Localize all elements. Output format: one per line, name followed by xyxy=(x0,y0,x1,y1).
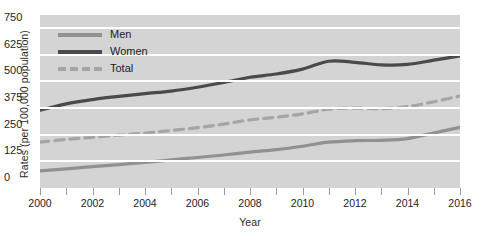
y-tick-label: 375 xyxy=(4,91,22,103)
gridline xyxy=(40,107,460,109)
y-tick-label: 0 xyxy=(4,171,10,183)
x-tick-label: 2016 xyxy=(448,197,471,209)
x-tick-mark xyxy=(171,188,172,195)
chart-legend: MenWomenTotal xyxy=(58,26,183,78)
gridline xyxy=(40,160,460,162)
x-tick-mark xyxy=(224,188,225,195)
x-tick-label: 2014 xyxy=(396,197,419,209)
x-tick-mark xyxy=(66,188,67,195)
x-tick-label: 2010 xyxy=(291,197,314,209)
x-tick-mark xyxy=(303,188,304,195)
chart-figure: Rates (per 100,000 population) 750625500… xyxy=(0,0,483,241)
x-tick-mark xyxy=(408,188,409,195)
x-tick-mark xyxy=(276,188,277,195)
x-tick-mark xyxy=(355,188,356,195)
legend-label: Men xyxy=(110,26,131,43)
gridline xyxy=(40,134,460,136)
x-tick-mark xyxy=(329,188,330,195)
y-tick-label: 125 xyxy=(4,144,22,156)
legend-label: Women xyxy=(110,43,148,60)
x-tick-mark xyxy=(250,188,251,195)
y-tick-label: 250 xyxy=(4,118,22,130)
x-tick-label: 2002 xyxy=(81,197,104,209)
legend-label: Total xyxy=(110,60,133,77)
x-tick-mark xyxy=(460,188,461,195)
x-tick-mark xyxy=(119,188,120,195)
y-tick-label: 750 xyxy=(4,11,22,23)
x-tick-mark xyxy=(198,188,199,195)
x-tick-mark xyxy=(434,188,435,195)
legend-swatch-total xyxy=(58,67,102,71)
x-tick-label: 2012 xyxy=(343,197,366,209)
legend-item-women: Women xyxy=(58,43,183,60)
x-tick-label: 2008 xyxy=(238,197,261,209)
x-tick-mark xyxy=(381,188,382,195)
legend-item-total: Total xyxy=(58,60,183,77)
legend-item-men: Men xyxy=(58,26,183,43)
x-tick-label: 2004 xyxy=(133,197,156,209)
x-tick-mark xyxy=(145,188,146,195)
gridline xyxy=(40,80,460,82)
legend-swatch-men xyxy=(58,33,102,37)
legend-swatch-women xyxy=(58,50,102,54)
y-tick-label: 500 xyxy=(4,64,22,76)
x-tick-mark xyxy=(40,188,41,195)
x-tick-mark xyxy=(93,188,94,195)
x-axis-title: Year xyxy=(40,216,460,228)
x-tick-label: 2000 xyxy=(28,197,51,209)
x-tick-label: 2006 xyxy=(186,197,209,209)
y-tick-label: 625 xyxy=(4,38,22,50)
